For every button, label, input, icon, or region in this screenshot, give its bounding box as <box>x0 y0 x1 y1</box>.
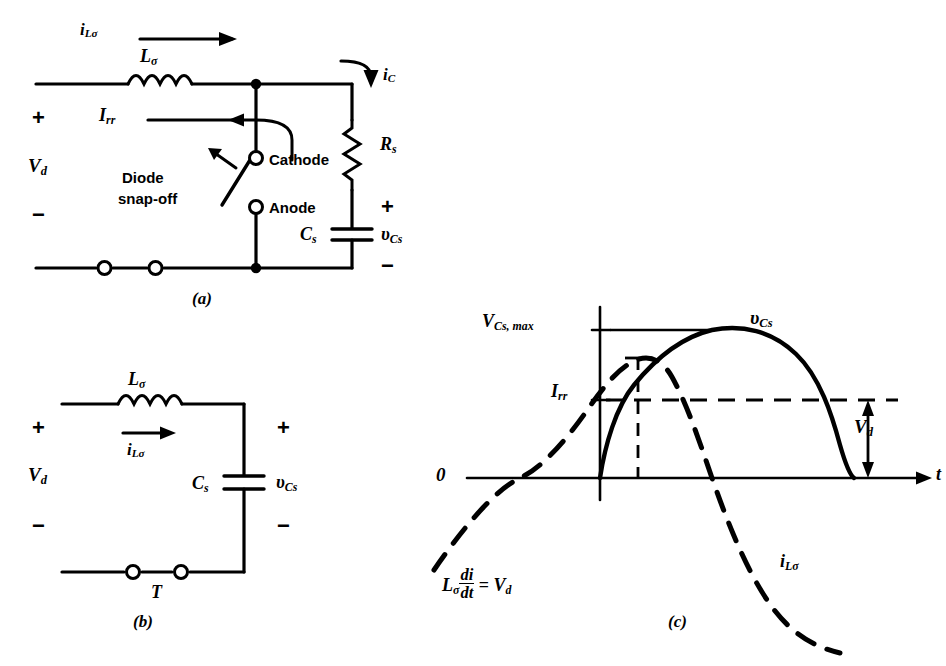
vcs-label-b: υCs <box>276 473 297 493</box>
inductor-label-a: Lσ <box>140 47 157 67</box>
ic-label: iC <box>383 66 395 85</box>
source-label-a: Vd <box>28 156 47 177</box>
source-minus-a: − <box>32 204 45 226</box>
vcs-minus-a: − <box>381 255 394 277</box>
inductor-symbol-b <box>118 396 182 405</box>
resistor-symbol-rs <box>344 120 360 190</box>
figure-b-circuit: Lσ iLσ + Vd − + Cs υCs − T (b) <box>0 352 420 652</box>
source-plus-b: + <box>32 417 45 439</box>
ytick-label-irr: Irr <box>551 382 567 402</box>
inductor-label-b: Lσ <box>128 370 145 390</box>
ytick-label-vcsmax: VCs, max <box>482 312 534 332</box>
x-axis-label: t <box>936 465 941 483</box>
vcs-label-a: υCs <box>381 225 402 245</box>
junction-dot-top <box>251 79 261 89</box>
ilsigma-arrowhead-b <box>160 427 176 440</box>
switch-terminal-circle-1 <box>127 566 140 579</box>
anode-label: Anode <box>269 200 316 215</box>
junction-dot-bottom <box>251 263 261 273</box>
bottom-terminal-circle-2 <box>149 262 162 275</box>
switch-label-t: T <box>151 583 162 601</box>
chart-svg <box>420 285 946 666</box>
ilsigma-label-a: iLσ <box>80 21 98 40</box>
diode-snapoff-line2: snap-off <box>118 191 177 206</box>
figure-a-svg <box>0 0 440 320</box>
inductor-symbol-a <box>128 76 192 85</box>
switch-terminal-circle-2 <box>175 566 188 579</box>
ilsigma-label-b: iLσ <box>127 441 145 460</box>
caption-c: (c) <box>668 613 687 630</box>
caption-a: (a) <box>192 290 212 307</box>
source-plus-a: + <box>32 107 45 129</box>
resistor-label-rs: Rs <box>380 135 397 155</box>
cathode-label: Cathode <box>269 152 329 167</box>
annotation-vd: Vd <box>854 417 873 438</box>
source-minus-b: − <box>32 515 45 537</box>
capacitor-label-cs-b: Cs <box>192 474 209 494</box>
capacitor-label-cs-a: Cs <box>300 225 317 245</box>
anode-terminal-circle <box>250 201 263 214</box>
figure-a-circuit: iLσ Lσ Irr iC + Vd − Diode snap-off Cath… <box>0 0 440 320</box>
cathode-terminal-circle <box>250 152 263 165</box>
vd-arrowhead-top <box>862 400 874 416</box>
vcs-plus-a: + <box>381 196 394 218</box>
vcs-plus-b: + <box>277 417 290 439</box>
irr-arrowhead <box>228 114 244 127</box>
vd-arrowhead-bottom <box>862 462 874 478</box>
vcs-minus-b: − <box>277 515 290 537</box>
figure-c-waveforms: VCs, max Irr 0 t υCs iLσ Vd Lσdidt = Vd … <box>420 285 946 666</box>
series-label-vcs: υCs <box>750 308 773 329</box>
bottom-terminal-circle-1 <box>98 262 111 275</box>
annotation-slope-equation: Lσdidt = Vd <box>442 566 512 603</box>
diode-snapoff-line1: Diode <box>122 170 164 185</box>
series-label-ilsigma: iLσ <box>780 552 799 572</box>
figure-b-svg <box>0 352 420 652</box>
irr-label-a: Irr <box>99 106 115 126</box>
origin-label: 0 <box>436 465 446 484</box>
x-axis-arrowhead <box>916 472 932 485</box>
source-label-b: Vd <box>28 465 47 486</box>
caption-b: (b) <box>133 613 153 630</box>
